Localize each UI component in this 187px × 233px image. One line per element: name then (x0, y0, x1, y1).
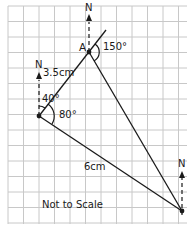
scale-note: Not to Scale (42, 200, 103, 210)
point-label-A: A (79, 42, 86, 53)
north-label-A: N (85, 3, 92, 13)
north-arrow-icon (36, 72, 42, 79)
triangle-sides (39, 30, 182, 211)
grid (8, 6, 187, 224)
length-label-OA: 3.5cm (43, 68, 74, 78)
angle-label-150: 150° (103, 42, 127, 52)
point-O (37, 114, 42, 119)
length-label-OB: 6cm (84, 162, 106, 172)
north-label-O: N (35, 60, 42, 70)
north-arrow-icon (179, 171, 185, 178)
segment-A-B (89, 52, 182, 211)
angle-arc-40 (39, 106, 45, 108)
north-label-B: N (178, 159, 185, 169)
point-B (180, 209, 185, 214)
angle-label-80: 80° (59, 110, 77, 120)
angle-label-40: 40° (42, 94, 60, 104)
north-arrow-icon (86, 14, 92, 21)
point-A (87, 50, 92, 55)
